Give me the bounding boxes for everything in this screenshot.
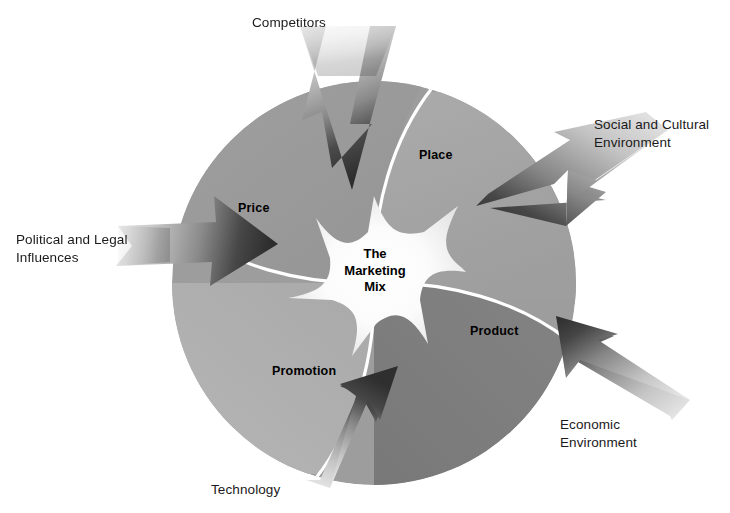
quadrant-label-product: Product xyxy=(470,324,519,338)
arrow-economic[interactable] xyxy=(556,316,690,420)
center-label-marketing-mix: The Marketing Mix xyxy=(334,246,416,296)
external-label-competitors: Competitors xyxy=(252,14,326,32)
external-label-political-legal: Political and Legal Influences xyxy=(16,231,127,267)
quadrant-label-promotion: Promotion xyxy=(272,364,336,378)
quadrant-label-place: Place xyxy=(419,148,453,162)
external-label-economic: Economic Environment xyxy=(560,416,637,452)
external-label-technology: Technology xyxy=(211,481,280,499)
external-label-social-cultural: Social and Cultural Environment xyxy=(594,116,709,152)
diagram-canvas: Price Place Product Promotion The Market… xyxy=(0,0,730,513)
quadrant-label-price: Price xyxy=(238,201,270,215)
